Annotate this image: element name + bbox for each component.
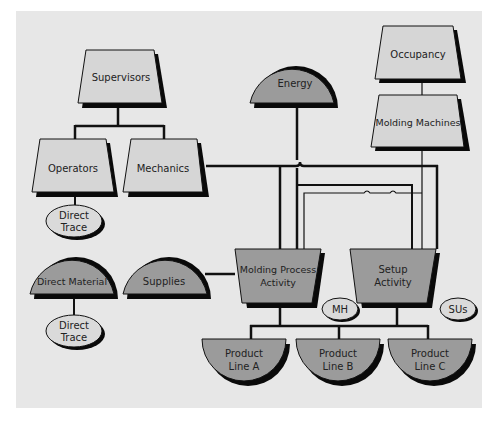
product-c-line1: Product	[411, 348, 449, 359]
sus-label: SUs	[449, 304, 468, 315]
molding-machines-label: Molding Machines	[375, 117, 460, 128]
molding-process-line2: Activity	[260, 277, 296, 288]
occupancy-label: Occupancy	[390, 49, 446, 60]
product-a-line2: Line A	[229, 361, 260, 372]
product-b-line2: Line B	[323, 361, 354, 372]
operators-label: Operators	[48, 163, 98, 174]
node-operators[interactable]: Operators	[32, 139, 118, 197]
product-c-line2: Line C	[414, 361, 445, 372]
product-b-line1: Product	[319, 348, 357, 359]
setup-line2: Activity	[374, 277, 411, 288]
product-a-line1: Product	[225, 348, 263, 359]
node-molding-machines[interactable]: Molding Machines	[371, 95, 470, 151]
node-setup-activity[interactable]: Setup Activity	[350, 249, 440, 308]
direct-trace-2-line2: Trace	[60, 332, 88, 343]
mh-label: MH	[332, 304, 348, 315]
direct-trace-1-line1: Direct	[59, 210, 89, 221]
activity-based-costing-diagram: Supervisors Operators Mechanics Occupanc…	[0, 0, 497, 427]
node-supervisors[interactable]: Supervisors	[78, 50, 167, 108]
node-mechanics[interactable]: Mechanics	[123, 139, 209, 197]
direct-trace-2-line1: Direct	[59, 320, 89, 331]
setup-line1: Setup	[378, 264, 407, 275]
direct-trace-1-line2: Trace	[60, 222, 88, 233]
molding-process-line1: Molding Process	[240, 264, 316, 275]
energy-label: Energy	[277, 78, 312, 89]
direct-material-label: Direct Material	[37, 276, 107, 287]
supplies-label: Supplies	[143, 276, 185, 287]
mechanics-label: Mechanics	[137, 163, 190, 174]
node-molding-process-activity[interactable]: Molding Process Activity	[235, 249, 325, 308]
node-occupancy[interactable]: Occupancy	[375, 26, 466, 83]
supervisors-label: Supervisors	[92, 72, 151, 83]
